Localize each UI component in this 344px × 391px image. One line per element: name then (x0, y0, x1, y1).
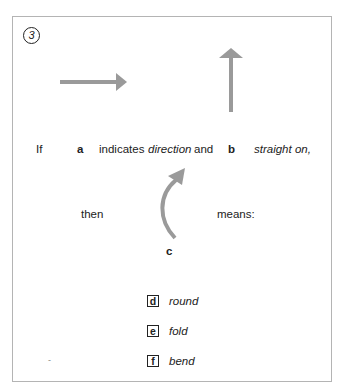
text-indicates: indicates (99, 143, 144, 155)
option-d[interactable]: d round (147, 295, 198, 307)
option-e-text: fold (169, 325, 188, 337)
option-d-letter-box: d (147, 295, 159, 307)
text-and: and (194, 143, 213, 155)
stray-mark: - (48, 355, 51, 365)
text-direction: direction (148, 143, 191, 155)
option-f[interactable]: f bend (147, 355, 195, 367)
label-b: b (228, 143, 235, 155)
label-c: c (166, 245, 172, 257)
option-e-letter-box: e (147, 325, 159, 337)
text-if: If (36, 143, 42, 155)
option-e[interactable]: e fold (147, 325, 188, 337)
right-arrow-icon (60, 73, 127, 91)
option-d-text: round (169, 295, 198, 307)
option-f-text: bend (169, 355, 195, 367)
text-straight-on: straight on, (254, 143, 311, 155)
up-arrow-icon (219, 48, 243, 112)
text-then: then (81, 208, 103, 220)
option-f-letter-box: f (147, 355, 159, 367)
label-a: a (77, 143, 83, 155)
text-means: means: (217, 208, 255, 220)
curved-up-arrow-icon (162, 168, 185, 238)
